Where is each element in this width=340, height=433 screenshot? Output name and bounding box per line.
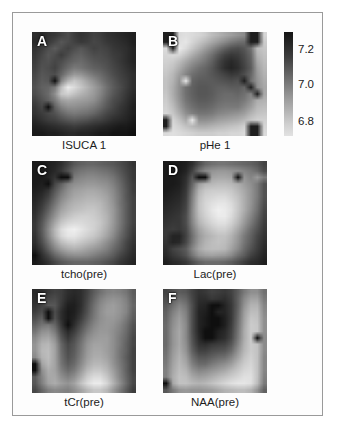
panel-caption-naa-pre: NAA(pre) xyxy=(163,396,267,409)
heatmap-canvas-tcho-pre xyxy=(32,161,136,265)
heatmap-phe-1[interactable]: B xyxy=(163,32,267,136)
panel-lac-pre[interactable]: D Lac(pre) xyxy=(163,161,267,281)
heatmap-canvas-naa-pre xyxy=(163,289,267,393)
panel-letter-a: A xyxy=(37,34,47,48)
heatmap-isuca-1[interactable]: A xyxy=(32,32,136,136)
panel-tcr-pre[interactable]: E tCr(pre) xyxy=(32,289,136,409)
panel-letter-e: E xyxy=(37,291,46,305)
heatmap-tcho-pre[interactable]: C xyxy=(32,161,136,265)
colorbar-tick-70: 7.0 xyxy=(298,78,314,90)
panel-caption-phe-1: pHe 1 xyxy=(163,139,267,152)
heatmap-canvas-isuca-1 xyxy=(32,32,136,136)
heatmap-canvas-tcr-pre xyxy=(32,289,136,393)
panel-isuca-1[interactable]: A ISUCA 1 xyxy=(32,32,136,152)
panel-letter-f: F xyxy=(168,291,177,305)
heatmap-tcr-pre[interactable]: E xyxy=(32,289,136,393)
heatmap-canvas-phe-1 xyxy=(163,32,267,136)
panel-caption-tcr-pre: tCr(pre) xyxy=(32,396,136,409)
panel-phe-1[interactable]: B pHe 1 xyxy=(163,32,267,152)
panel-letter-c: C xyxy=(37,163,47,177)
panel-letter-d: D xyxy=(168,163,178,177)
panel-letter-b: B xyxy=(168,34,178,48)
colorbar-tick-72: 7.2 xyxy=(298,43,314,55)
figure-frame: A ISUCA 1 B pHe 1 7.2 7.0 6.8 C tcho(pre… xyxy=(12,12,323,416)
heatmap-lac-pre[interactable]: D xyxy=(163,161,267,265)
colorbar-tick-68: 6.8 xyxy=(298,115,314,127)
heatmap-naa-pre[interactable]: F xyxy=(163,289,267,393)
panel-caption-isuca-1: ISUCA 1 xyxy=(32,139,136,152)
panel-grid: A ISUCA 1 B pHe 1 7.2 7.0 6.8 C tcho(pre… xyxy=(13,13,322,415)
panel-caption-lac-pre: Lac(pre) xyxy=(163,268,267,281)
panel-caption-tcho-pre: tcho(pre) xyxy=(32,268,136,281)
ph-colorbar-gradient xyxy=(284,32,293,136)
ph-colorbar-group: 7.2 7.0 6.8 xyxy=(284,32,324,140)
panel-tcho-pre[interactable]: C tcho(pre) xyxy=(32,161,136,281)
panel-naa-pre[interactable]: F NAA(pre) xyxy=(163,289,267,409)
heatmap-canvas-lac-pre xyxy=(163,161,267,265)
